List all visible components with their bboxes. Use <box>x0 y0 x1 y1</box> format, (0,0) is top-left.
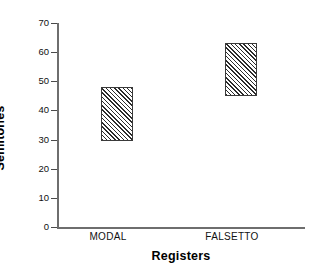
plot-area <box>57 23 305 228</box>
y-tick-label-10: 10 <box>3 193 49 203</box>
y-tick-label-50: 50 <box>3 76 49 86</box>
bar-falsetto <box>225 43 257 96</box>
y-tick-label-60: 60 <box>3 47 49 57</box>
y-tick-label-30: 30 <box>3 135 49 145</box>
y-tick-label-0: 0 <box>3 222 49 232</box>
y-tick-label-70: 70 <box>3 18 49 28</box>
bar-modal <box>101 87 133 141</box>
y-tick-label-20: 20 <box>3 164 49 174</box>
x-category-label-falsetto: FALSETTO <box>185 231 279 243</box>
x-axis-title: Registers <box>57 249 305 263</box>
bar-chart: Semitones 70 60 50 40 30 20 10 0 MODAL F… <box>0 0 318 276</box>
x-category-label-modal: MODAL <box>61 231 155 243</box>
y-tick-label-40: 40 <box>3 105 49 115</box>
